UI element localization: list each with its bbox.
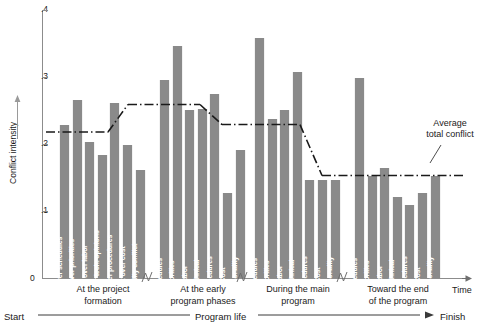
axis-break-mark bbox=[336, 271, 348, 283]
y-axis-zero-label: 0 bbox=[30, 273, 35, 283]
bar[interactable]: Priorities bbox=[172, 46, 183, 278]
bar-group: SchedulesPrioritiesLaborTechnicalProcedu… bbox=[159, 10, 247, 278]
bar[interactable]: Technical bbox=[292, 72, 303, 278]
group-caption: At the projectformation bbox=[49, 284, 157, 307]
bar[interactable]: Priorities bbox=[267, 119, 278, 278]
bar[interactable]: Labor bbox=[279, 110, 290, 278]
group-caption-line-1: During the main bbox=[244, 284, 352, 296]
y-axis-arrow-icon bbox=[14, 95, 21, 139]
timeline-arrows bbox=[0, 305, 496, 331]
bar[interactable]: Personality conflict bbox=[135, 170, 146, 278]
bar[interactable]: Procedures bbox=[209, 94, 220, 278]
bar[interactable]: Procedures bbox=[304, 180, 315, 278]
bar[interactable]: Technical bbox=[197, 109, 208, 279]
bar-label: Labor bbox=[374, 266, 385, 285]
bar[interactable]: Priorities bbox=[367, 176, 378, 279]
average-total-conflict-annotation: Average total conflict bbox=[414, 118, 486, 140]
bar-label: Labor bbox=[179, 266, 190, 285]
group-caption: At the earlyprogram phases bbox=[149, 284, 257, 307]
bar-group: SchedulesPrioritiesLaborTechnicalProcedu… bbox=[354, 10, 442, 278]
bar-label: Cost bbox=[312, 267, 323, 282]
plot-area: Conflict over schedulesConflict over pri… bbox=[42, 10, 467, 278]
group-caption: Toward the endof the program bbox=[344, 284, 452, 307]
group-caption-line-1: At the project bbox=[49, 284, 157, 296]
bar[interactable]: Personality bbox=[330, 180, 341, 278]
bar[interactable]: Schedules bbox=[159, 80, 170, 278]
bar[interactable]: Personality bbox=[430, 176, 441, 279]
bar-label: Labor bbox=[274, 266, 285, 285]
bar-group: SchedulesPrioritiesLaborTechnicalProcedu… bbox=[254, 10, 342, 278]
bar[interactable]: Schedules bbox=[354, 78, 365, 278]
x-axis-title: Time bbox=[452, 285, 472, 295]
bar[interactable]: Schedules bbox=[254, 38, 265, 278]
annotation-line-1: Average bbox=[414, 118, 486, 129]
bar[interactable]: Personality bbox=[235, 150, 246, 278]
bar-label: Cost bbox=[217, 267, 228, 282]
group-caption-line-1: Toward the end bbox=[344, 284, 452, 296]
bar[interactable]: Labor bbox=[184, 110, 195, 278]
group-caption: During the mainprogram bbox=[244, 284, 352, 307]
bar-group: Conflict over schedulesConflict over pri… bbox=[59, 10, 147, 278]
chart-root: .1.2.3.4 Conflict intensity 0 Time Confl… bbox=[0, 0, 496, 334]
axis-break-mark bbox=[236, 271, 248, 283]
bar-label: Cost bbox=[412, 267, 423, 282]
axis-break-mark bbox=[141, 271, 153, 283]
group-caption-line-1: At the early bbox=[149, 284, 257, 296]
annotation-line-2: total conflict bbox=[414, 129, 486, 140]
